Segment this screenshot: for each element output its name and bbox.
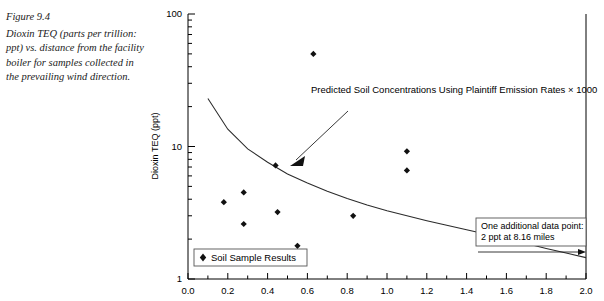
x-tick-label: 1.4: [460, 285, 473, 296]
x-tick-label: 1.8: [540, 285, 553, 296]
x-axis-ticks: 0.00.20.40.60.81.01.21.41.61.82.0: [181, 273, 592, 296]
x-tick-label: 1.0: [380, 285, 393, 296]
extra-point-note-line1: One additional data point:: [481, 221, 584, 231]
extra-point-note-line2: 2 ppt at 8.16 miles: [481, 232, 555, 242]
x-tick-label: 0.0: [181, 285, 194, 296]
y-tick-label: 100: [166, 8, 182, 19]
extra-point-note-arrowhead: [578, 249, 586, 255]
x-tick-label: 2.0: [579, 285, 592, 296]
x-tick-label: 0.4: [261, 285, 274, 296]
x-tick-label: 0.2: [221, 285, 234, 296]
x-tick-label: 1.2: [420, 285, 433, 296]
data-point-marker: [310, 51, 316, 57]
y-axis-title: Dioxin TEQ (ppt): [150, 113, 160, 180]
y-tick-label: 1: [177, 273, 182, 284]
figure-page: Figure 9.4 Dioxin TEQ (parts per trillio…: [0, 0, 604, 301]
x-tick-label: 0.6: [301, 285, 314, 296]
x-tick-label: 1.6: [500, 285, 513, 296]
curve-annotation-arrowhead: [290, 156, 305, 166]
data-point-marker: [241, 189, 247, 195]
data-point-marker: [350, 213, 356, 219]
y-tick-label: 10: [171, 141, 182, 152]
data-point-marker: [221, 199, 227, 205]
chart-figure: 110100 0.00.20.40.60.81.01.21.41.61.82.0…: [0, 0, 604, 301]
data-point-marker: [274, 209, 280, 215]
x-tick-label: 0.8: [341, 285, 354, 296]
soil-sample-points: [221, 51, 410, 256]
data-point-marker: [241, 221, 247, 227]
legend-label-soil-sample-results: Soil Sample Results: [211, 252, 296, 263]
data-point-marker: [404, 167, 410, 173]
curve-annotation-arrow: [296, 111, 348, 160]
data-point-marker: [272, 162, 278, 168]
data-point-marker: [294, 243, 300, 249]
y-axis-ticks: 110100: [166, 8, 195, 284]
curve-annotation-label: Predicted Soil Concentrations Using Plai…: [311, 84, 597, 95]
data-point-marker: [404, 148, 410, 154]
